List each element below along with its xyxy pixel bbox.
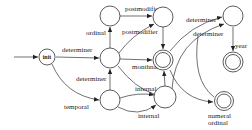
node-det [100,48,120,68]
edge-temp-internal-a [120,94,154,98]
edge-internal-month [164,71,165,86]
edge-det2-numord [197,36,214,97]
node-internal [154,86,176,108]
edge-label: determiner [76,75,107,83]
edge-label: ordinal [208,119,228,127]
node-post [153,7,173,27]
edge-label: year [235,42,248,50]
edge-det-month [120,59,152,60]
svg-text:init: init [43,54,52,60]
edge-init-det [56,57,99,58]
node-temp [100,90,120,110]
node-label-temporal: temporal [64,103,89,111]
edge-label: ordinal [86,29,106,37]
edge-label: postmodifier [122,28,158,36]
edge-label: determiner [62,46,93,54]
node-ord [100,6,120,26]
edge-label: internal [138,112,159,120]
node-year-final [223,52,243,72]
edge-month-numord [170,70,213,102]
node-month-final [153,50,173,70]
edge-label: internal [135,85,156,93]
edge-label: determiner [186,16,217,24]
node-det2 [223,6,243,26]
edge-temp-internal-b [118,105,156,112]
node-init: init [39,49,55,65]
fsa-diagram: determiner ordinal postmodifier postmodi… [0,0,252,130]
node-numord-final [215,92,234,111]
